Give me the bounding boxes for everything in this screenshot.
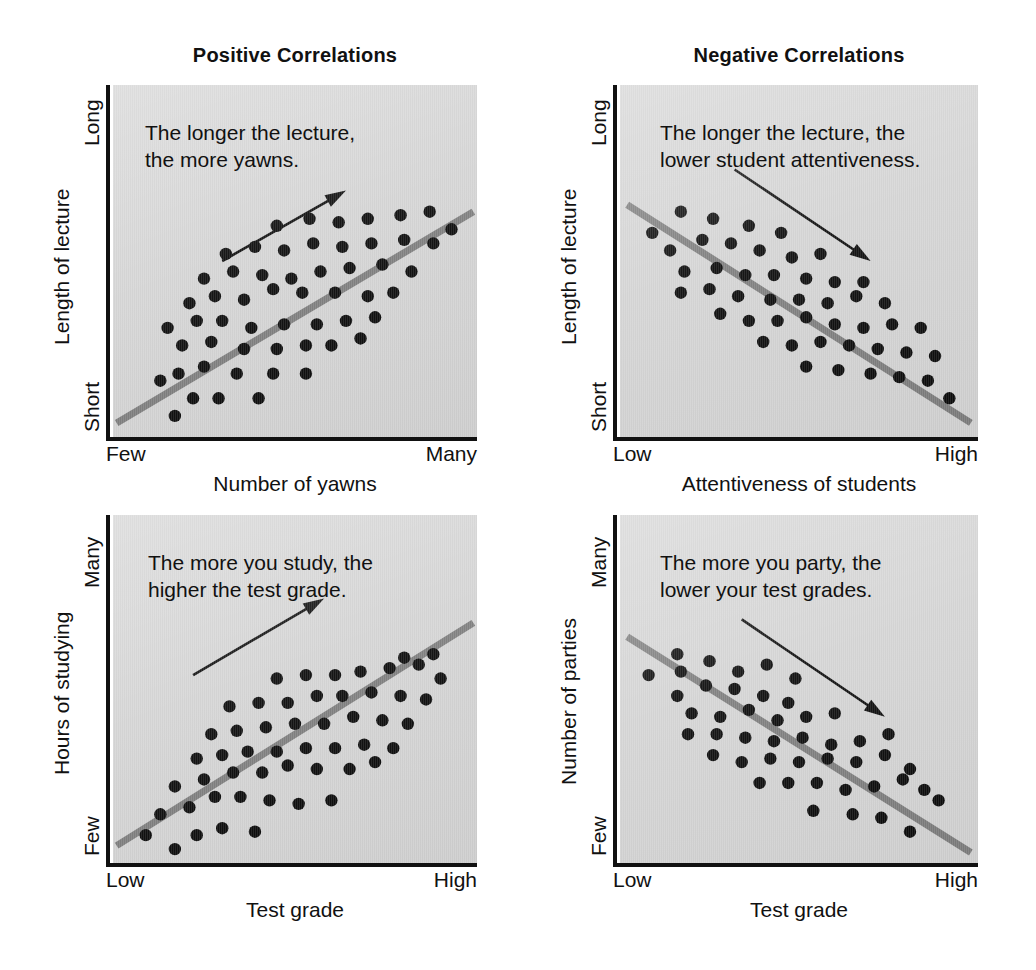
data-point: [445, 223, 457, 235]
data-point: [263, 794, 275, 806]
x-axis-title-studying-grades: Test grade: [113, 898, 477, 922]
data-point: [728, 683, 740, 695]
data-point: [811, 777, 823, 789]
data-point: [786, 339, 798, 351]
data-point: [289, 718, 301, 730]
data-point: [929, 350, 941, 362]
data-point: [245, 322, 257, 334]
data-point: [296, 286, 308, 298]
data-point: [420, 693, 432, 705]
data-point: [800, 360, 812, 372]
data-point: [864, 367, 876, 379]
data-point: [300, 339, 312, 351]
y-axis-line-lecture-attentiveness: [613, 85, 617, 437]
data-point: [872, 343, 884, 355]
data-point: [329, 669, 341, 681]
x-axis-line-lecture-yawns: [106, 437, 477, 441]
y-axis-line-studying-grades: [106, 515, 110, 863]
data-point: [739, 732, 751, 744]
data-point: [329, 742, 341, 754]
data-point: [714, 308, 726, 320]
data-point: [427, 237, 439, 249]
data-point: [764, 294, 776, 306]
data-point: [904, 763, 916, 775]
y-axis-title-lecture-attentiveness: Length of lecture: [557, 189, 581, 345]
data-point: [793, 756, 805, 768]
x-tick-right-lecture-attentiveness: High: [935, 442, 978, 466]
data-point: [782, 777, 794, 789]
regression-line: [117, 623, 474, 846]
data-point: [753, 777, 765, 789]
x-tick-left-studying-grades: Low: [106, 868, 145, 892]
data-point: [922, 374, 934, 386]
data-point: [764, 752, 776, 764]
regression-line: [627, 205, 971, 423]
data-point: [904, 825, 916, 837]
data-point: [271, 343, 283, 355]
data-point: [241, 745, 253, 757]
data-point: [354, 665, 366, 677]
data-point: [329, 286, 341, 298]
data-point: [311, 763, 323, 775]
data-point: [212, 392, 224, 404]
data-point: [278, 318, 290, 330]
data-point: [789, 672, 801, 684]
data-point: [814, 248, 826, 260]
data-point: [886, 318, 898, 330]
data-point: [675, 206, 687, 218]
data-point: [743, 315, 755, 327]
data-point: [893, 371, 905, 383]
data-point: [793, 294, 805, 306]
data-point: [664, 244, 676, 256]
data-point: [209, 290, 221, 302]
data-point: [868, 780, 880, 792]
y-axis-line-lecture-yawns: [106, 85, 110, 437]
data-point: [646, 227, 658, 239]
data-point: [394, 690, 406, 702]
y-tick-bottom-parties-grades: Few: [587, 816, 611, 856]
data-point: [394, 209, 406, 221]
data-point: [832, 364, 844, 376]
data-point: [216, 822, 228, 834]
data-point: [231, 367, 243, 379]
data-point: [376, 714, 388, 726]
data-point: [252, 697, 264, 709]
data-point: [362, 213, 374, 225]
data-point: [857, 276, 869, 288]
y-axis-title-parties-grades: Number of parties: [557, 618, 581, 785]
data-point: [383, 662, 395, 674]
data-point: [675, 286, 687, 298]
data-point: [292, 798, 304, 810]
data-point: [282, 697, 294, 709]
data-point: [140, 829, 152, 841]
data-point: [800, 272, 812, 284]
data-point: [191, 829, 203, 841]
data-point: [771, 714, 783, 726]
data-point: [347, 711, 359, 723]
y-axis-title-studying-grades: Hours of studying: [50, 612, 74, 775]
data-point: [358, 738, 370, 750]
data-point: [685, 707, 697, 719]
data-point: [427, 648, 439, 660]
data-point: [398, 234, 410, 246]
data-point: [821, 752, 833, 764]
data-point: [336, 690, 348, 702]
data-point: [354, 332, 366, 344]
data-point: [343, 763, 355, 775]
data-point: [365, 686, 377, 698]
data-point: [943, 392, 955, 404]
data-point: [300, 669, 312, 681]
data-point: [369, 311, 381, 323]
x-tick-left-lecture-yawns: Few: [106, 442, 146, 466]
data-point: [829, 318, 841, 330]
data-point: [260, 721, 272, 733]
data-point: [714, 711, 726, 723]
data-point: [732, 290, 744, 302]
data-point: [782, 697, 794, 709]
data-point: [829, 276, 841, 288]
data-point: [703, 655, 715, 667]
y-axis-title-lecture-yawns: Length of lecture: [50, 189, 74, 345]
y-tick-bottom-lecture-attentiveness: Short: [587, 382, 611, 432]
data-point: [918, 784, 930, 796]
y-tick-top-studying-grades: Many: [80, 537, 104, 588]
